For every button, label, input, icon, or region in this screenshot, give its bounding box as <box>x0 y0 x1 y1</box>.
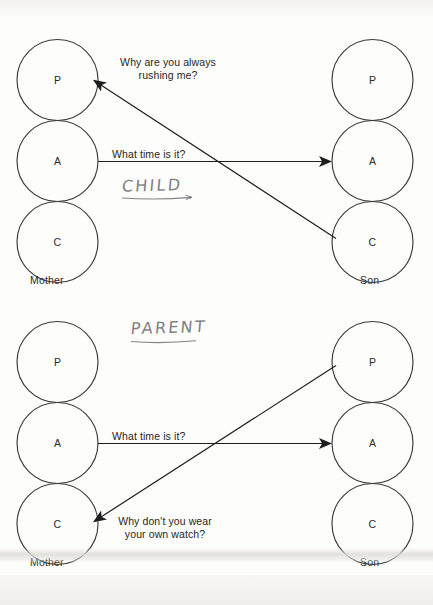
diagram-crossed-transaction-child: P A C P A C Why are you always rushing m… <box>0 0 433 300</box>
person-label-mother-top: Mother <box>30 274 64 286</box>
person-label-son-top: Son <box>360 274 379 286</box>
handwritten-underline-child <box>0 0 433 305</box>
person-label-son-bottom: Son <box>360 556 379 568</box>
diagram-crossed-transaction-parent: P A C P A C What time is it? Why don't y… <box>0 300 433 605</box>
person-label-mother-bottom: Mother <box>30 556 64 568</box>
scanned-page: P A C P A C Why are you always rushing m… <box>0 0 433 605</box>
